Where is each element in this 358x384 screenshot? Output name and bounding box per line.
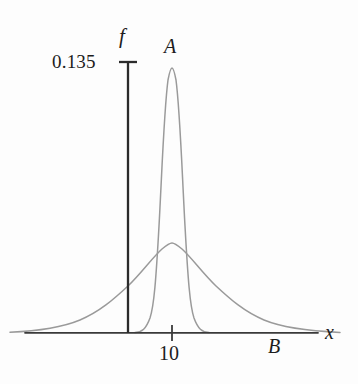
probability-density-figure: 0.135 f A 10 B x bbox=[0, 0, 358, 384]
x-axis-title: x bbox=[325, 322, 334, 342]
y-axis-max-label: 0.135 bbox=[52, 52, 96, 71]
y-axis-title: f bbox=[119, 26, 125, 47]
curve-a-path bbox=[135, 68, 209, 333]
x-axis-tick-label-10: 10 bbox=[159, 343, 179, 363]
curve-b-label: B bbox=[268, 336, 280, 356]
curve-a-label: A bbox=[164, 36, 176, 56]
curve-b-path bbox=[10, 243, 340, 332]
